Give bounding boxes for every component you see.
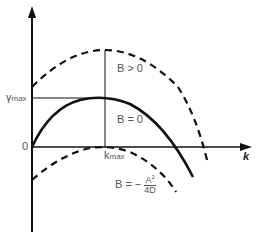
y-axis-arrow-icon [28, 6, 36, 18]
curve-b-zero [32, 98, 193, 177]
label-b-zero: B = 0 [117, 114, 143, 125]
gamma-max-label: γmax [6, 92, 27, 103]
fraction-a2-over-4d: A2 4D [144, 174, 156, 196]
label-b-positive: B > 0 [117, 63, 143, 74]
origin-label: 0 [22, 141, 28, 152]
k-max-label: kmax [104, 150, 125, 161]
x-axis-label: k [243, 151, 249, 162]
label-b-negative: B = − A2 4D [115, 174, 156, 196]
